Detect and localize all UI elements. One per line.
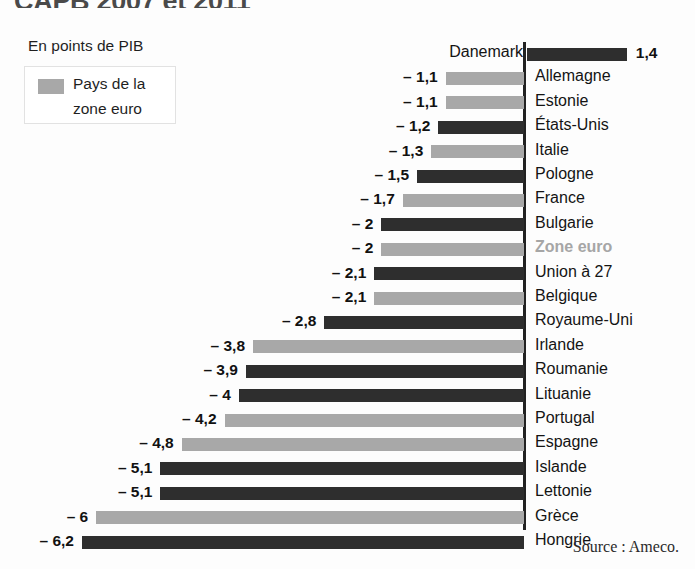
bar-royaume-uni xyxy=(324,316,524,329)
bar-row: – 1,7France xyxy=(0,188,695,212)
country-label: Allemagne xyxy=(535,67,611,85)
country-label: Bulgarie xyxy=(535,214,594,232)
value-label: – 1,3 xyxy=(389,142,423,160)
country-label: Islande xyxy=(535,458,587,476)
bar-row: – 5,1Islande xyxy=(0,457,695,481)
bar-italie xyxy=(431,145,524,158)
value-label: – 4,2 xyxy=(182,410,216,428)
country-label: États-Unis xyxy=(535,116,609,134)
value-label: – 3,8 xyxy=(211,337,245,355)
value-label: – 2 xyxy=(352,239,374,257)
value-label: – 4 xyxy=(209,386,231,404)
bar-row: – 2,8Royaume-Uni xyxy=(0,310,695,334)
bar-row: – 3,9Roumanie xyxy=(0,359,695,383)
country-label: Danemark xyxy=(449,43,523,61)
value-label: 1,4 xyxy=(636,44,658,62)
value-label: – 5,1 xyxy=(118,459,152,477)
bar-gr-ce xyxy=(96,511,524,524)
bar-hongrie xyxy=(82,536,524,549)
bar-portugal xyxy=(225,414,524,427)
country-label: Belgique xyxy=(535,287,597,305)
plot-area: 1,4Danemark– 1,1Allemagne– 1,1Estonie– 1… xyxy=(0,0,695,569)
source-note: Source : Ameco. xyxy=(573,538,679,556)
bar-row: – 4Lituanie xyxy=(0,384,695,408)
country-label: Estonie xyxy=(535,92,588,110)
country-label: Zone euro xyxy=(535,238,612,256)
country-label: Italie xyxy=(535,141,569,159)
value-label: – 2 xyxy=(352,215,374,233)
value-label: – 1,2 xyxy=(396,117,430,135)
bar-zone-euro xyxy=(381,243,524,256)
bar-row: 1,4Danemark xyxy=(0,42,695,66)
bar-row: – 1,5Pologne xyxy=(0,164,695,188)
bar-pologne xyxy=(417,170,524,183)
bar-france xyxy=(403,194,524,207)
value-label: – 6 xyxy=(67,508,89,526)
country-label: Pologne xyxy=(535,165,594,183)
bar-row: – 1,1Estonie xyxy=(0,91,695,115)
bar--tats-unis xyxy=(438,121,524,134)
country-label: Royaume-Uni xyxy=(535,311,633,329)
bar-row: – 2,1Union à 27 xyxy=(0,262,695,286)
country-label: Irlande xyxy=(535,336,584,354)
bar-lettonie xyxy=(160,487,524,500)
country-label: Lettonie xyxy=(535,482,592,500)
bar-bulgarie xyxy=(381,218,524,231)
value-label: – 2,8 xyxy=(282,312,316,330)
chart-root: CAPB 2007 et 2011 En points de PIB Pays … xyxy=(0,0,695,569)
value-label: – 6,2 xyxy=(39,532,73,550)
bar-row: – 3,8Irlande xyxy=(0,335,695,359)
bar-row: – 1,3Italie xyxy=(0,140,695,164)
bar-row: – 1,2États-Unis xyxy=(0,115,695,139)
country-label: Roumanie xyxy=(535,360,608,378)
country-label: France xyxy=(535,189,585,207)
value-label: – 1,1 xyxy=(403,93,437,111)
bar-belgique xyxy=(374,292,524,305)
bar-row: – 5,1Lettonie xyxy=(0,481,695,505)
value-label: – 2,1 xyxy=(332,288,366,306)
bar-row: – 2Bulgarie xyxy=(0,213,695,237)
bar-irlande xyxy=(253,340,524,353)
country-label: Grèce xyxy=(535,507,579,525)
bar-islande xyxy=(160,462,524,475)
value-label: – 4,8 xyxy=(139,434,173,452)
value-label: – 1,5 xyxy=(375,166,409,184)
country-label: Espagne xyxy=(535,433,598,451)
bar-espagne xyxy=(182,438,524,451)
bar-lituanie xyxy=(239,389,524,402)
value-label: – 5,1 xyxy=(118,483,152,501)
bar-estonie xyxy=(446,96,524,109)
value-label: – 1,7 xyxy=(360,190,394,208)
bar-row: – 4,2Portugal xyxy=(0,408,695,432)
value-label: – 2,1 xyxy=(332,264,366,282)
bar-allemagne xyxy=(446,72,524,85)
bar-row: – 6Grèce xyxy=(0,506,695,530)
value-label: – 1,1 xyxy=(403,68,437,86)
bar-danemark xyxy=(527,48,627,61)
bar-roumanie xyxy=(246,365,524,378)
value-label: – 3,9 xyxy=(203,361,237,379)
bar-row: – 4,8Espagne xyxy=(0,432,695,456)
country-label: Portugal xyxy=(535,409,595,427)
bar-row: – 1,1Allemagne xyxy=(0,66,695,90)
country-label: Union à 27 xyxy=(535,263,612,281)
bar-union-27 xyxy=(374,267,524,280)
bar-row: – 2Zone euro xyxy=(0,237,695,261)
country-label: Lituanie xyxy=(535,385,591,403)
bar-row: – 2,1Belgique xyxy=(0,286,695,310)
